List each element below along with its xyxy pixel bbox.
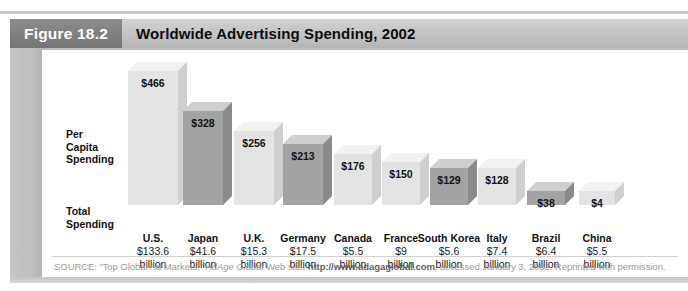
bars-layer: $466U.S.$133.6billion$328Japan$41.6billi… bbox=[42, 50, 688, 281]
bar-side-face bbox=[274, 122, 283, 205]
bar-south-korea: $129 bbox=[430, 159, 477, 205]
bar-u-s: $466 bbox=[128, 62, 187, 205]
source-suffix: , accessed January 3, 2003. Reprinted wi… bbox=[435, 261, 666, 272]
bar-block: $176 bbox=[334, 145, 381, 205]
bar-front-face bbox=[183, 111, 223, 205]
bar-block: $129 bbox=[430, 159, 477, 205]
figure-title: Worldwide Advertising Spending, 2002 bbox=[136, 19, 415, 48]
bar-block: $150 bbox=[382, 153, 429, 205]
bar-side-face bbox=[372, 145, 381, 205]
bar-front-face bbox=[527, 191, 565, 205]
bar-side-face bbox=[516, 159, 525, 205]
bar-brazil: $38 bbox=[527, 182, 574, 205]
bar-front-face bbox=[430, 168, 468, 205]
bar-front-face bbox=[128, 71, 178, 205]
source-publication: AdAge Global bbox=[205, 261, 263, 272]
bar-block: $328 bbox=[183, 102, 232, 205]
source-prefix: SOURCE: “Top Global Ad Markets,” bbox=[54, 261, 205, 272]
bar-block: $466 bbox=[128, 62, 187, 205]
figure-root: Figure 18.2 Worldwide Advertising Spendi… bbox=[0, 0, 688, 291]
bar-front-face bbox=[382, 162, 420, 205]
bar-japan: $328 bbox=[183, 102, 232, 205]
bar-block: $128 bbox=[478, 159, 525, 205]
chart-area: Per Capita Spending Total Spending $466U… bbox=[42, 50, 688, 281]
panel-left-shade bbox=[10, 48, 42, 283]
bar-italy: $128 bbox=[478, 159, 525, 205]
bar-canada: $176 bbox=[334, 145, 381, 205]
bar-front-face bbox=[334, 154, 372, 205]
bar-side-face bbox=[468, 159, 477, 205]
bar-front-face bbox=[478, 168, 516, 205]
figure-number-tag: Figure 18.2 bbox=[10, 19, 122, 48]
category-name: China bbox=[557, 232, 637, 245]
bar-block: $38 bbox=[527, 182, 574, 205]
source-middle: Web site, bbox=[264, 261, 308, 272]
bar-side-face bbox=[323, 135, 332, 205]
bar-germany: $213 bbox=[283, 135, 332, 205]
bar-side-face bbox=[420, 153, 429, 205]
bar-china: $4 bbox=[579, 182, 624, 205]
source-divider bbox=[52, 256, 678, 257]
bar-u-k: $256 bbox=[234, 122, 283, 205]
bar-block: $4 bbox=[579, 182, 624, 205]
source-note: SOURCE: “Top Global Ad Markets,” AdAge G… bbox=[54, 261, 680, 272]
page-top-rule bbox=[0, 11, 688, 14]
bar-block: $213 bbox=[283, 135, 332, 205]
bar-block: $256 bbox=[234, 122, 283, 205]
source-url[interactable]: http://www.adagaglobal.com bbox=[308, 261, 435, 272]
bar-side-face bbox=[223, 102, 232, 205]
bar-front-face bbox=[283, 144, 323, 205]
bar-front-face bbox=[234, 131, 274, 205]
bar-france: $150 bbox=[382, 153, 429, 205]
bar-front-face bbox=[579, 191, 615, 205]
